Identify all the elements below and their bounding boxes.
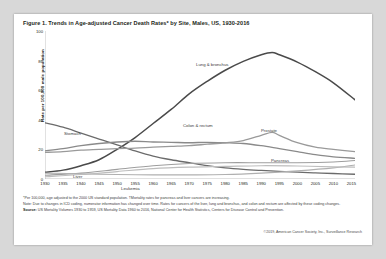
line-chart bbox=[45, 31, 355, 179]
x-tick-label: 2005 bbox=[311, 181, 320, 186]
x-tick-label: 1985 bbox=[239, 181, 248, 186]
series-annotation-label: Colon & rectum bbox=[183, 123, 213, 128]
series-annotation-label: Prostate bbox=[261, 128, 277, 133]
series-annotation-label: Liver bbox=[73, 174, 82, 179]
series-annotation-label: Lung & bronchus bbox=[196, 62, 229, 67]
x-tick-label: 1930 bbox=[40, 181, 49, 186]
x-tick-label: 1990 bbox=[257, 181, 266, 186]
footnote-source: Source: US Mortality Volumes 1930 to 195… bbox=[23, 208, 364, 214]
series-annotation-label: Stomach bbox=[64, 131, 81, 136]
y-tick-label: 20 bbox=[38, 147, 43, 152]
x-tick-label: 1960 bbox=[148, 181, 157, 186]
x-tick-label: 1980 bbox=[221, 181, 230, 186]
copyright-credit: ©2019, American Cancer Society, Inc., Su… bbox=[264, 230, 362, 234]
chart-container: Rate per 100,000 male population 0204060… bbox=[23, 31, 363, 193]
source-text: US Mortality Volumes 1930 to 1959, US Mo… bbox=[38, 208, 284, 212]
footnote-asterisk: *Per 100,000, age adjusted to the 2000 U… bbox=[23, 196, 364, 202]
y-tick-label: 40 bbox=[38, 117, 43, 122]
x-axis-ticks: 1930193519401945195019551960196519701975… bbox=[45, 180, 355, 190]
y-axis-ticks: 020406080100 bbox=[31, 31, 44, 179]
x-tick-label: 2015 bbox=[347, 181, 356, 186]
plot-area bbox=[45, 31, 355, 179]
series-annotation-label: Pancreas bbox=[271, 158, 289, 163]
y-tick-label: 100 bbox=[36, 29, 43, 34]
series-line bbox=[45, 52, 355, 172]
y-tick-label: 60 bbox=[38, 88, 43, 93]
footnote-note: Note: Due to changes in ICD coding, nume… bbox=[23, 202, 364, 208]
x-tick-label: 1975 bbox=[203, 181, 212, 186]
y-tick-label: 80 bbox=[38, 58, 43, 63]
x-tick-label: 1965 bbox=[166, 181, 175, 186]
x-tick-label: 1995 bbox=[275, 181, 284, 186]
series-annotation-label: Leukemia bbox=[121, 186, 140, 191]
source-label: Source: bbox=[23, 208, 37, 212]
x-tick-label: 1945 bbox=[94, 181, 103, 186]
figure-page: Figure 1. Trends in Age-adjusted Cancer … bbox=[14, 14, 372, 245]
x-tick-label: 2010 bbox=[329, 181, 338, 186]
footnotes: *Per 100,000, age adjusted to the 2000 U… bbox=[23, 196, 364, 214]
page-title: Figure 1. Trends in Age-adjusted Cancer … bbox=[23, 20, 249, 26]
x-tick-label: 2000 bbox=[293, 181, 302, 186]
x-tick-label: 1970 bbox=[185, 181, 194, 186]
x-tick-label: 1935 bbox=[58, 181, 67, 186]
x-tick-label: 1940 bbox=[76, 181, 85, 186]
